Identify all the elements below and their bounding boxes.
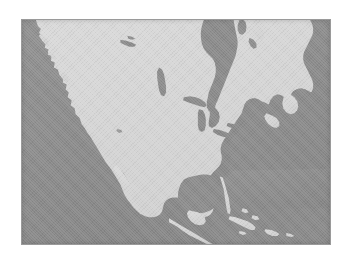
north-america-map — [22, 20, 330, 244]
gulf-of-mexico — [178, 175, 221, 214]
figure-root — [0, 0, 350, 261]
map-frame — [21, 19, 331, 245]
